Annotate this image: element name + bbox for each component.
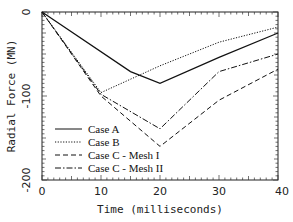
legend-entry: Case B [88, 136, 119, 148]
x-tick-label: 30 [212, 185, 226, 198]
axis-labels: 0102030400-100-200Time (milliseconds)Rad… [5, 9, 289, 217]
axis-ticks [42, 12, 278, 180]
legend-entry: Case C - Mesh II [88, 162, 163, 174]
y-tick-label: -200 [20, 168, 33, 193]
x-tick-label: 20 [153, 185, 167, 198]
y-tick-label: -100 [20, 84, 33, 109]
line-chart: 0102030400-100-200Time (milliseconds)Rad… [0, 0, 293, 222]
series-lines [42, 12, 278, 146]
series-line [42, 12, 278, 146]
x-axis-label: Time (milliseconds) [97, 203, 223, 216]
legend: Case ACase BCase C - Mesh ICase C - Mesh… [55, 123, 163, 174]
plot-border [42, 12, 278, 180]
y-axis-label: Radial Force (MN) [5, 40, 18, 153]
x-tick-label: 0 [39, 185, 46, 198]
legend-entry: Case C - Mesh I [88, 149, 160, 161]
x-tick-label: 40 [275, 185, 289, 198]
series-line [42, 12, 278, 93]
legend-entry: Case A [88, 123, 120, 135]
series-line [42, 12, 278, 83]
x-tick-label: 10 [94, 185, 108, 198]
y-tick-label: 0 [20, 9, 33, 16]
plot-frame [42, 12, 278, 180]
series-line [42, 12, 278, 129]
